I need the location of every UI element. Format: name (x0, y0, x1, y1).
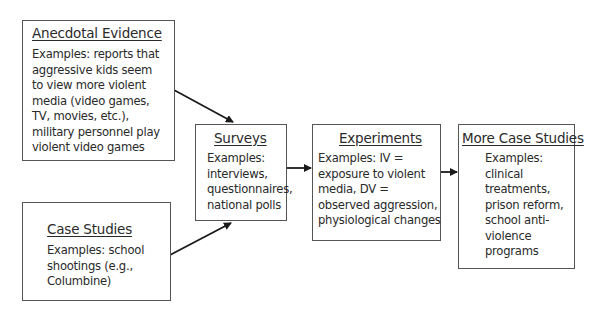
node-line: interviews, (207, 167, 292, 183)
node-line: observed aggression, (318, 198, 441, 214)
node-case-studies: Case Studies Examples: school shootings … (22, 202, 171, 301)
node-line: questionnaires, (207, 182, 292, 198)
node-line: Examples: school (47, 243, 144, 259)
node-surveys: Surveys Examples: interviews, questionna… (195, 124, 287, 221)
node-line: programs (485, 244, 563, 260)
node-line: clinical (485, 167, 563, 183)
node-line: Examples: (485, 151, 563, 167)
node-line: violence (485, 229, 563, 245)
node-line: treatments, (485, 182, 563, 198)
node-title: Surveys (214, 130, 267, 146)
node-description: Examples: school shootings (e.g., Columb… (47, 243, 144, 290)
node-title: More Case Studies (462, 130, 584, 146)
node-line: media, DV = (318, 182, 441, 198)
node-line: physiological changes (318, 213, 441, 229)
node-line: shootings (e.g., (47, 259, 144, 275)
node-line: media (video games, (32, 94, 160, 110)
node-description: Examples: clinical treatments, prison re… (485, 151, 563, 260)
node-line: aggressive kids seem (32, 63, 160, 79)
arrow-case-studies-to-surveys (170, 223, 231, 255)
node-title: Case Studies (47, 221, 132, 237)
node-description: Examples: IV = exposure to violent media… (318, 151, 441, 229)
node-title: Anecdotal Evidence (32, 25, 162, 41)
node-line: Columbine) (47, 274, 144, 290)
node-line: exposure to violent (318, 167, 441, 183)
node-line: TV, movies, etc.), (32, 109, 160, 125)
node-more-case-studies: More Case Studies Examples: clinical tre… (458, 124, 575, 269)
node-line: school anti- (485, 213, 563, 229)
node-line: prison reform, (485, 198, 563, 214)
node-line: to view more violent (32, 78, 160, 94)
node-experiments: Experiments Examples: IV = exposure to v… (312, 124, 441, 241)
node-line: military personnel play (32, 125, 160, 141)
node-description: Examples: reports that aggressive kids s… (32, 47, 160, 156)
node-line: Examples: (207, 151, 292, 167)
arrow-anecdotal-to-surveys (174, 90, 233, 122)
node-line: national polls (207, 198, 292, 214)
node-line: Examples: IV = (318, 151, 441, 167)
node-description: Examples: interviews, questionnaires, na… (207, 151, 292, 213)
node-anecdotal-evidence: Anecdotal Evidence Examples: reports tha… (22, 20, 175, 161)
node-title: Experiments (339, 130, 422, 146)
node-line: violent video games (32, 140, 160, 156)
node-line: Examples: reports that (32, 47, 160, 63)
